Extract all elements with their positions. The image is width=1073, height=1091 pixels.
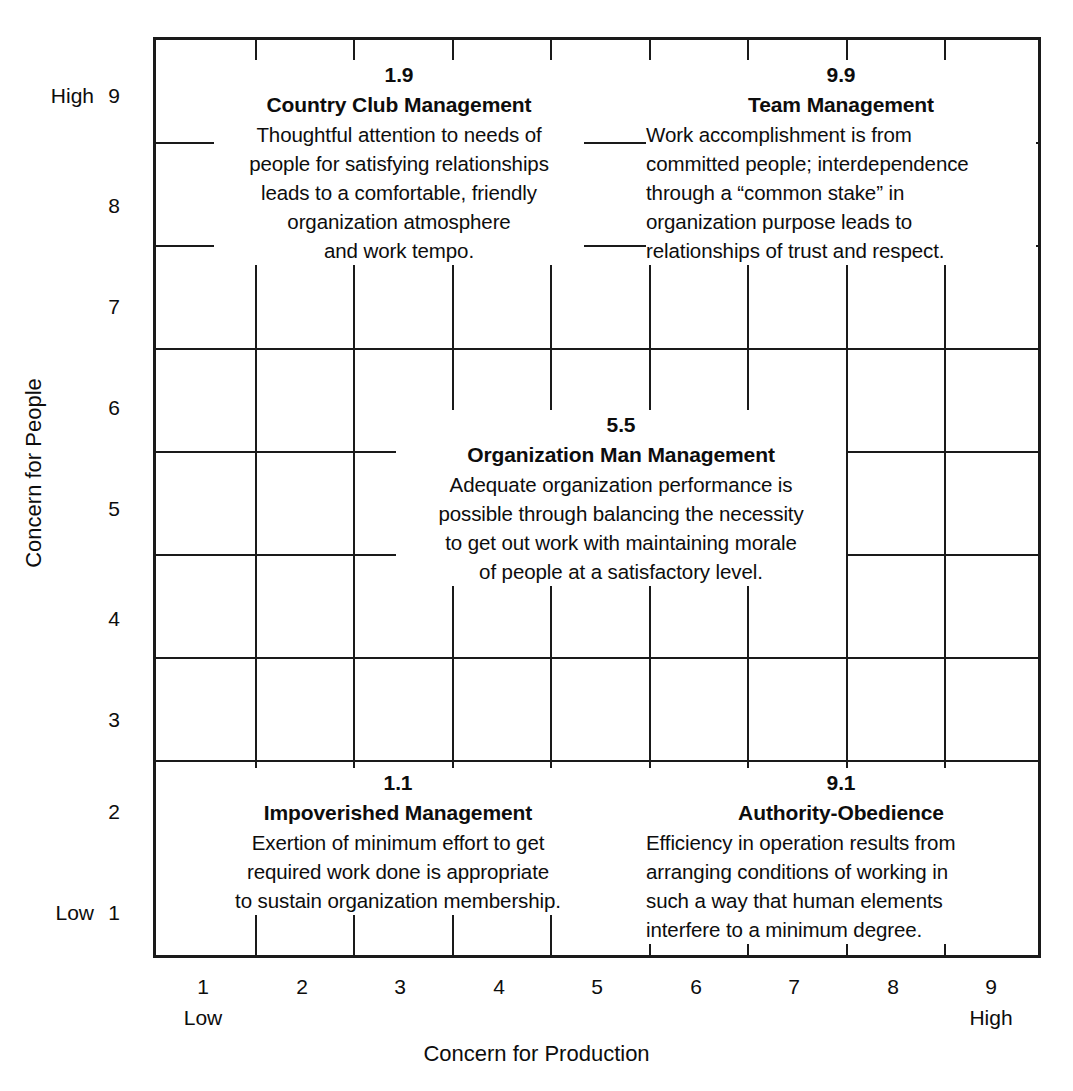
gridline-horizontal-3 (156, 348, 1038, 350)
quadrant-title-authority-obedience: Authority-Obedience (646, 798, 1036, 828)
x-tick-3: 3 (370, 975, 430, 999)
quadrant-body-country-club-line2: people for satisfying relationships (214, 149, 584, 178)
gridline-horizontal-6 (156, 657, 1038, 659)
y-tick-6-number: 6 (105, 396, 120, 420)
x-tick-9: 9 (961, 975, 1021, 999)
x-tick-2: 2 (272, 975, 332, 999)
quadrant-body-country-club-line1: Thoughtful attention to needs of (214, 120, 584, 149)
x-tick-8: 8 (863, 975, 923, 999)
y-tick-3: 3 (0, 708, 120, 732)
y-tick-9-qualifier: High (51, 84, 94, 107)
quadrant-country-club-management: 1.9 Country Club Management Thoughtful a… (214, 60, 584, 265)
x-tick-5: 5 (567, 975, 627, 999)
y-tick-1-qualifier: Low (55, 901, 94, 924)
quadrant-title-organization-man: Organization Man Management (396, 440, 846, 470)
y-tick-6: 6 (0, 396, 120, 420)
quadrant-body-impoverished-line3: to sustain organization membership. (188, 886, 608, 915)
quadrant-title-team: Team Management (646, 90, 1036, 120)
y-tick-5-number: 5 (105, 497, 120, 521)
x-axis-high-label: High (946, 1006, 1036, 1030)
quadrant-body-organization-man-line3: to get out work with maintaining morale (396, 528, 846, 557)
y-tick-8: 8 (0, 194, 120, 218)
quadrant-organization-man-management: 5.5 Organization Man Management Adequate… (396, 410, 846, 586)
quadrant-body-country-club-line4: organization atmosphere (214, 207, 584, 236)
y-axis-title: Concern for People (21, 343, 47, 603)
quadrant-code-1-9: 1.9 (214, 60, 584, 90)
quadrant-body-team-line1: Work accomplishment is from (646, 120, 1036, 149)
y-tick-3-number: 3 (105, 708, 120, 732)
quadrant-code-5-5: 5.5 (396, 410, 846, 440)
quadrant-body-country-club-line5: and work tempo. (214, 236, 584, 265)
quadrant-body-authority-obedience-line4: interfere to a minimum degree. (646, 915, 1036, 944)
y-tick-9: High9 (0, 84, 120, 108)
y-tick-7: 7 (0, 295, 120, 319)
x-axis-title: Concern for Production (0, 1041, 1073, 1067)
gridline-horizontal-7 (156, 760, 1038, 762)
quadrant-body-country-club-line3: leads to a comfortable, friendly (214, 178, 584, 207)
quadrant-body-team-line5: relationships of trust and respect. (646, 236, 1036, 265)
x-tick-4: 4 (469, 975, 529, 999)
y-tick-4-number: 4 (105, 607, 120, 631)
y-tick-1: Low1 (0, 901, 120, 925)
quadrant-code-9-1: 9.1 (646, 768, 1036, 798)
quadrant-body-team-line4: organization purpose leads to (646, 207, 1036, 236)
quadrant-body-organization-man-line2: possible through balancing the necessity (396, 499, 846, 528)
grid-plot-area: 1.9 Country Club Management Thoughtful a… (153, 37, 1041, 958)
quadrant-title-impoverished: Impoverished Management (188, 798, 608, 828)
y-tick-9-number: 9 (105, 84, 120, 108)
quadrant-body-impoverished-line1: Exertion of minimum effort to get (188, 828, 608, 857)
y-tick-2: 2 (0, 800, 120, 824)
quadrant-team-management: 9.9 Team Management Work accomplishment … (646, 60, 1036, 265)
x-tick-1: 1 (173, 975, 233, 999)
y-tick-8-number: 8 (105, 194, 120, 218)
quadrant-body-authority-obedience-line2: arranging conditions of working in (646, 857, 1036, 886)
quadrant-body-organization-man-line1: Adequate organization performance is (396, 470, 846, 499)
y-tick-7-number: 7 (105, 295, 120, 319)
quadrant-authority-obedience: 9.1 Authority-Obedience Efficiency in op… (646, 768, 1036, 944)
y-tick-1-number: 1 (105, 901, 120, 925)
x-axis-low-label: Low (158, 1006, 248, 1030)
quadrant-body-organization-man-line4: of people at a satisfactory level. (396, 557, 846, 586)
y-tick-5: 5 (0, 497, 120, 521)
x-tick-6: 6 (666, 975, 726, 999)
quadrant-body-authority-obedience-line1: Efficiency in operation results from (646, 828, 1036, 857)
quadrant-title-country-club: Country Club Management (214, 90, 584, 120)
quadrant-body-authority-obedience-line3: such a way that human elements (646, 886, 1036, 915)
quadrant-code-9-9: 9.9 (646, 60, 1036, 90)
quadrant-body-team-line2: committed people; interdependence (646, 149, 1036, 178)
managerial-grid-figure: 1.9 Country Club Management Thoughtful a… (0, 0, 1073, 1091)
quadrant-body-team-line3: through a “common stake” in (646, 178, 1036, 207)
y-tick-4: 4 (0, 607, 120, 631)
x-tick-7: 7 (764, 975, 824, 999)
quadrant-impoverished-management: 1.1 Impoverished Management Exertion of … (188, 768, 608, 915)
quadrant-code-1-1: 1.1 (188, 768, 608, 798)
quadrant-body-impoverished-line2: required work done is appropriate (188, 857, 608, 886)
y-tick-2-number: 2 (105, 800, 120, 824)
